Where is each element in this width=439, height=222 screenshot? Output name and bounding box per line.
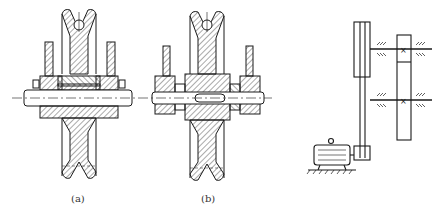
pulley-assembly-a bbox=[12, 10, 138, 179]
belt-drive-schematic: × × bbox=[307, 22, 432, 174]
svg-text:×: × bbox=[400, 97, 407, 106]
svg-text:×: × bbox=[400, 46, 407, 55]
technical-drawing: × × bbox=[0, 0, 439, 222]
caption-b: (b) bbox=[201, 194, 215, 204]
pulley-assembly-b bbox=[138, 12, 272, 181]
caption-a: (a) bbox=[71, 194, 85, 204]
